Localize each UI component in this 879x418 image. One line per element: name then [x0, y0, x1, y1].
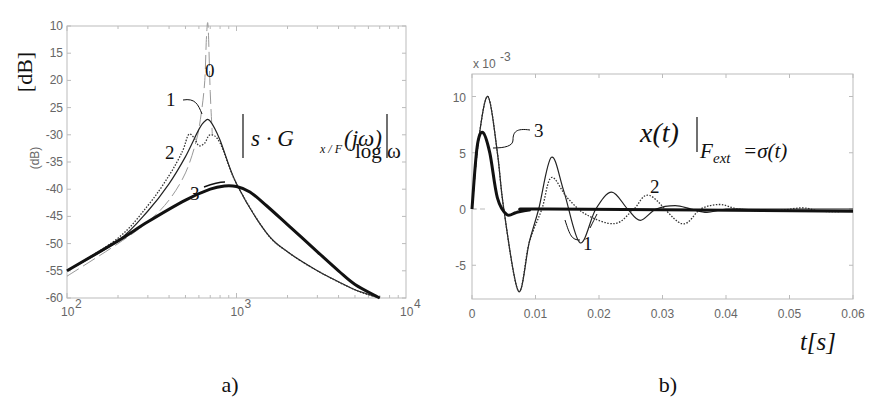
y-tick-label: 25: [50, 101, 64, 115]
curve-label-1-b: 1: [583, 233, 593, 254]
y-axis-label-a: [dB]: [12, 52, 37, 92]
x-tick-label: 10: [400, 305, 414, 319]
y-tick-label: 15: [50, 46, 64, 60]
y-tick-label: -60: [46, 291, 64, 305]
plot-title-b: x(t) F ext =σ(t): [639, 117, 787, 166]
title-subsub-b: ext: [713, 150, 731, 166]
y-tick-label: -30: [46, 128, 64, 142]
y-tick-label: 5: [459, 147, 466, 161]
x-tick-label: 0: [469, 307, 476, 321]
title-main-b: x(t): [639, 117, 679, 148]
y-tick-label: -35: [46, 155, 64, 169]
title-arg-a: (jω): [344, 126, 382, 151]
x-tick-label: 0.05: [778, 307, 802, 321]
title-sub-b: F: [699, 139, 713, 163]
y-tick-label: -50: [46, 237, 64, 251]
y-tick-label: 0: [459, 203, 466, 217]
y-axis-ticks-a: 10152025-30-35-40-45-50-55-60: [46, 19, 406, 305]
y-tick-label: -5: [455, 259, 466, 273]
x-tick-label: 10: [61, 305, 75, 319]
x-axis-ticks-a: 102103104: [61, 26, 421, 319]
x-tick-label: 0.04: [714, 307, 738, 321]
curve-label-1-a: 1: [166, 89, 176, 110]
title-sub-a: x / F: [319, 142, 343, 156]
y-tick-label: 10: [50, 19, 64, 33]
x-tick-label: 0.06: [841, 307, 865, 321]
title-main-a: s · G: [251, 126, 294, 151]
curve-label-2-a: 2: [165, 142, 175, 163]
y-axis-small-label-a: (dB): [28, 147, 42, 170]
title-rest-b: =σ(t): [743, 139, 787, 163]
svg-text:3: 3: [245, 297, 252, 311]
x-tick-label: 0.01: [524, 307, 548, 321]
step-response-plot: 1050-5 00.010.020.030.040.050.06 x 10 -3…: [453, 50, 865, 397]
svg-text:x 10: x 10: [473, 57, 496, 71]
x-tick-label: 10: [231, 305, 245, 319]
svg-text:4: 4: [414, 297, 421, 311]
curve-0: [67, 23, 212, 277]
curves-a: [67, 23, 380, 298]
x-tick-label: 0.03: [651, 307, 675, 321]
y-tick-label: -45: [46, 209, 64, 223]
curve-3: [67, 186, 380, 298]
svg-text:-3: -3: [500, 50, 511, 64]
curve-label-3-b: 3: [534, 120, 544, 141]
y-tick-label: -55: [46, 264, 64, 278]
x-axis-ticks-b: 00.010.020.030.040.050.06: [469, 74, 865, 321]
y-tick-label: 20: [50, 73, 64, 87]
curve-2: [67, 134, 380, 298]
curve-label-2-b: 2: [650, 176, 660, 197]
bode-magnitude-plot: 10152025-30-35-40-45-50-55-60 102103104 …: [12, 19, 421, 397]
panel-caption-b: b): [659, 372, 677, 397]
plot-frame-b: [472, 74, 853, 299]
svg-text:2: 2: [75, 297, 82, 311]
curve-label-0-a: 0: [205, 60, 215, 81]
x-axis-label-b: t[s]: [800, 328, 836, 355]
figure: 10152025-30-35-40-45-50-55-60 102103104 …: [0, 0, 879, 418]
panel-caption-a: a): [221, 372, 238, 397]
curve-label-3-a: 3: [190, 183, 200, 204]
y-multiplier-b: x 10 -3: [473, 50, 511, 71]
x-tick-label: 0.02: [587, 307, 611, 321]
y-tick-label: 10: [453, 91, 467, 105]
y-tick-label: -40: [46, 182, 64, 196]
